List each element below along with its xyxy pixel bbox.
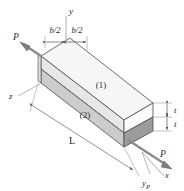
length-extension-right	[124, 147, 139, 176]
layer-one-label: (1)	[96, 80, 107, 90]
force-right-label: P	[159, 149, 166, 159]
z-axis-label: z	[8, 91, 13, 101]
length-label: L	[69, 135, 75, 146]
layer-two-label: (2)	[80, 110, 91, 120]
yp-axis-label: yP	[141, 178, 150, 190]
t-bottom-label: t	[174, 119, 177, 129]
z-axis-line	[18, 84, 40, 96]
bhalf-left-label: b/2	[50, 25, 62, 35]
x-axis-label: x	[164, 170, 169, 180]
beam-left-end-face	[38, 54, 41, 83]
beam-figure-svg: (1) (2) y b/2 b/2 P z t t L P x yP	[0, 0, 184, 191]
y-axis-label: y	[68, 6, 73, 16]
composite-beam-diagram: (1) (2) y b/2 b/2 P z t t L P x yP	[0, 0, 184, 191]
force-left-arrowhead	[20, 42, 30, 51]
force-left-label: P	[12, 32, 19, 42]
yp-axis-line	[142, 152, 150, 174]
yp-axis-subscript: P	[145, 183, 150, 190]
bhalf-right-label: b/2	[72, 25, 84, 35]
t-top-label: t	[174, 105, 177, 115]
